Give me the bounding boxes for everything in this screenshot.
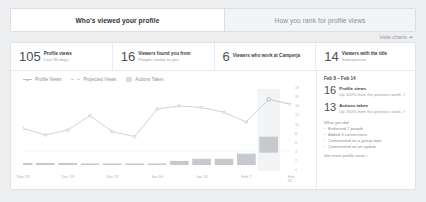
tab-label: Who's viewed your profile (76, 17, 160, 24)
x-axis-tick-label: Feb 21 (288, 175, 295, 183)
y-axis-tick-label: 2 (295, 160, 315, 164)
legend-label: Actions Taken (135, 77, 164, 82)
legend-label: Profile Views (35, 77, 61, 82)
chart-data-point[interactable] (89, 114, 92, 117)
what-you-did-list: Endorsed 7 peopleAdded 3 connectionsComm… (324, 126, 411, 150)
chart-data-point[interactable] (178, 105, 181, 108)
chart-x-axis: Nov 29Dec 13Dec 27Jan 10Jan 24Feb 7Feb 2… (23, 175, 291, 185)
chart-data-point[interactable] (133, 135, 136, 138)
chart-bar (259, 137, 278, 153)
chart-legend: Profile Views Projected Views Actions Ta… (23, 77, 164, 82)
chart-profile-views-line (23, 99, 291, 136)
y-axis-tick-label: 8 (295, 133, 315, 137)
stat-subtitle: Salesperson (342, 57, 387, 63)
y-axis-tick-label: 4 (295, 151, 315, 155)
legend-label: Projected Views (83, 77, 116, 82)
x-axis-tick-label: Jan 10 (151, 175, 163, 179)
tab-label: How you rank for profile views (275, 17, 366, 24)
detail-date-range: Feb 8 – Feb 14 (324, 76, 411, 81)
detail-metric-actions-taken: 13 Actions taken Up 160% from the previo… (324, 102, 411, 114)
chart-bar (170, 161, 189, 165)
legend-line-marker-icon (23, 79, 32, 80)
chart-bar (23, 163, 32, 165)
y-axis-tick-label: 12 (295, 114, 315, 118)
tab-whos-viewed-your-profile[interactable]: Who's viewed your profile (11, 9, 225, 31)
stat-viewers-by-company[interactable]: 6 Viewers who work at Camperja (215, 43, 317, 70)
chart-data-point[interactable] (245, 121, 248, 124)
stat-subtitle: People similar to you (138, 57, 190, 63)
chart-bar (81, 163, 100, 165)
chart-data-point[interactable] (111, 130, 114, 133)
analytics-card: 105 Profile views Last 90 days 16 Viewer… (10, 42, 416, 190)
legend-item-projected-views[interactable]: Projected Views (71, 77, 116, 82)
chart-bar (125, 163, 144, 165)
chart-bar (36, 163, 55, 165)
y-axis-tick-label: 10 (295, 124, 315, 128)
stat-profile-views[interactable]: 105 Profile views Last 90 days (11, 43, 113, 70)
tab-bar: Who's viewed your profile How you rank f… (10, 8, 416, 32)
chart-bar (148, 163, 167, 165)
y-axis-tick-label: 16 (295, 96, 315, 100)
what-you-did-heading: What you did: (324, 120, 411, 125)
hide-charts-label: Hide charts (380, 34, 407, 40)
y-axis-tick-label: 18 (295, 87, 315, 91)
stat-title: Viewers with the title (342, 51, 387, 57)
stat-title: Viewers who work at Camperja (233, 53, 300, 59)
x-axis-tick-label: Dec 13 (61, 175, 73, 179)
legend-item-profile-views[interactable]: Profile Views (23, 77, 61, 82)
chart-bar (215, 159, 234, 165)
chart-data-point[interactable] (290, 103, 291, 106)
stat-title: Profile views (44, 51, 72, 57)
stat-number: 14 (324, 50, 338, 63)
detail-metric-profile-views: 16 Profile views Up 100% from the previo… (324, 85, 411, 97)
chart-panel: Profile Views Projected Views Actions Ta… (11, 71, 317, 190)
stat-viewers-found-you-from[interactable]: 16 Viewers found you from People similar… (113, 43, 215, 70)
chart-data-point[interactable] (66, 129, 69, 132)
y-axis-tick-label: 14 (295, 105, 315, 109)
stat-subtitle: Last 90 days (44, 57, 72, 63)
tab-how-you-rank[interactable]: How you rank for profile views (225, 9, 415, 31)
stats-row: 105 Profile views Last 90 days 16 Viewer… (11, 43, 417, 71)
chart-bar (58, 163, 77, 165)
what-you-did-item: Commented on an update (324, 144, 411, 150)
legend-swatch-icon (126, 77, 132, 82)
stat-number: 105 (19, 50, 41, 63)
profile-views-dashboard: Who's viewed your profile How you rank f… (0, 0, 426, 202)
x-axis-tick-label: Feb 7 (241, 175, 251, 179)
chevron-up-icon (409, 36, 413, 38)
stat-title: Viewers found you from (138, 51, 190, 57)
chart-bar (103, 163, 122, 165)
chart-svg (23, 89, 291, 171)
chart-bar (192, 159, 211, 165)
chart-data-point[interactable] (23, 127, 24, 130)
y-axis-tick-label: 6 (295, 142, 315, 146)
chart-bar (237, 154, 256, 165)
y-axis-tick-label: 0 (295, 169, 315, 173)
chart-plot-area[interactable] (23, 89, 291, 171)
chart-data-point[interactable] (44, 134, 47, 137)
chart-data-point[interactable] (200, 106, 203, 109)
legend-dashed-line-icon (71, 79, 80, 80)
get-more-profile-views-link[interactable]: Get more profile views › (324, 153, 411, 158)
stat-viewers-by-title[interactable]: 14 Viewers with the title Salesperson (316, 43, 417, 70)
detail-metric-number: 13 (324, 102, 336, 113)
x-axis-tick-label: Jan 24 (196, 175, 208, 179)
legend-item-actions-taken[interactable]: Actions Taken (126, 77, 164, 82)
detail-metric-number: 16 (324, 85, 336, 96)
stat-number: 6 (223, 50, 230, 63)
chart-data-point[interactable] (223, 111, 226, 114)
chart-data-point[interactable] (267, 98, 270, 101)
hide-charts-toggle[interactable]: Hide charts (380, 34, 413, 40)
chart-y-axis: 181614121086420 (295, 87, 315, 173)
chart-data-point[interactable] (156, 108, 159, 111)
weekly-detail-panel: Feb 8 – Feb 14 16 Profile views Up 100% … (317, 71, 417, 190)
x-axis-tick-label: Nov 29 (17, 175, 29, 179)
stat-number: 16 (121, 50, 135, 63)
detail-metric-subtitle: Up 100% from the previous week ↗ (339, 92, 405, 98)
detail-metric-subtitle: Up 160% from the previous week ↗ (339, 109, 405, 115)
x-axis-tick-label: Dec 27 (106, 175, 118, 179)
